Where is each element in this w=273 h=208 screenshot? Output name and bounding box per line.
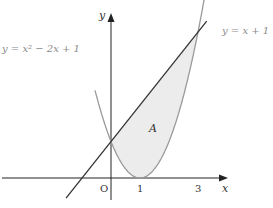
origin-label: O [100,183,108,194]
line-label: y = x + 1 [221,25,269,36]
curve-label: y = x² − 2x + 1 [1,43,80,54]
y-axis-label: y [98,9,106,22]
x-tick-3: 3 [195,183,201,194]
y-axis-arrow-icon [108,13,115,22]
region-a [111,32,198,178]
region-label: A [148,122,157,135]
x-tick-1: 1 [137,183,143,194]
x-axis-arrow-icon [219,175,228,182]
x-axis-label: x [222,182,229,195]
figure: y = x² − 2x + 1 y = x + 1 A y x O 1 3 [0,0,273,208]
